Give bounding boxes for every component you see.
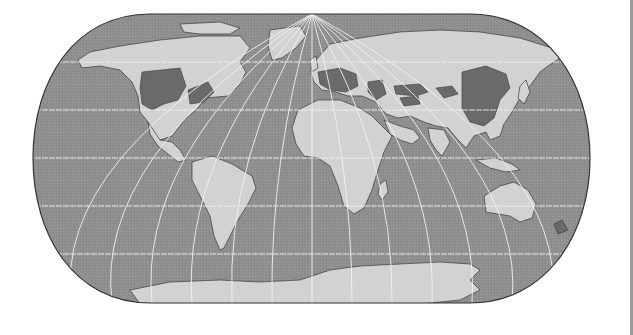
- world-map: [0, 0, 633, 335]
